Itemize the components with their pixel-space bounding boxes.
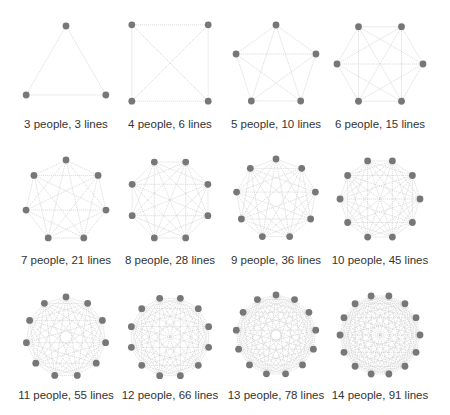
person-node [128,21,135,28]
edge-line [355,304,416,353]
edge-line [34,160,66,175]
figure-label-11: 11 people, 55 lines [10,389,122,401]
edge-line [276,159,302,168]
edge-line [186,162,208,184]
edge-line [48,160,66,238]
edge-line [340,199,348,223]
person-node [129,181,136,188]
complete-graph-14 [337,293,424,378]
person-node [409,219,416,226]
person-node [195,305,202,312]
person-node [99,317,106,324]
figure-label-9: 9 people, 36 lines [220,254,332,266]
edge-line [154,184,208,238]
person-node [128,98,135,105]
edge-line [48,210,106,238]
person-node [368,293,375,300]
edge-line [26,26,66,95]
person-node [156,295,163,302]
person-node [248,98,255,105]
edge-line [340,199,412,223]
person-node [334,61,341,68]
person-node [138,305,145,312]
person-node [307,216,314,223]
edge-line [131,327,159,376]
edge-line [262,192,315,237]
person-node [355,23,362,30]
edge-line [290,219,311,237]
edge-line [131,327,180,376]
person-node [368,371,375,378]
person-node [102,92,109,99]
edge-line [34,175,106,210]
edge-line [392,199,420,237]
person-node [238,216,245,223]
edge-line [48,175,98,238]
edge-line [66,160,98,175]
person-node [80,235,87,242]
edge-line [26,175,98,210]
person-node [337,196,344,203]
person-node [63,294,70,301]
edge-line [44,303,54,375]
complete-graph-7 [23,157,110,242]
person-node [273,292,280,299]
person-node [95,172,102,179]
edge-line [30,320,106,342]
person-node [177,372,184,379]
edge-line [26,210,84,238]
person-node [402,363,409,370]
person-node [417,332,424,339]
complete-graph-4 [128,21,211,104]
edge-line [348,223,368,238]
edge-line [30,303,88,320]
figure-label-8: 8 people, 28 lines [114,254,226,266]
person-node [385,293,392,300]
edges [340,161,420,237]
person-node [420,61,427,68]
person-node [299,362,306,369]
edge-line [251,25,276,101]
edge-line [368,175,413,237]
person-node [205,98,212,105]
edge-line [368,161,413,223]
person-node [352,363,359,370]
person-node [156,372,163,379]
figure-label-6: 6 people, 15 lines [324,118,436,130]
edge-line [337,27,359,64]
person-node [205,323,212,330]
person-node [341,314,348,321]
edge-line [340,175,412,199]
edge-line [389,304,405,374]
edge-line [276,25,316,54]
person-node [74,372,81,379]
person-node [63,23,70,30]
edge-line [237,168,302,192]
person-node [298,165,305,172]
person-node [355,98,362,105]
person-node [409,172,416,179]
person-node [352,300,359,307]
person-node [23,207,30,214]
person-node [417,196,424,203]
person-node [273,156,280,163]
person-node [291,296,298,303]
person-node [344,172,351,179]
edge-line [249,300,294,365]
person-node [240,309,247,316]
person-node [182,159,189,166]
person-node [398,98,405,105]
edge-line [186,216,208,238]
edge-line [337,27,402,64]
edge-line [392,161,412,223]
edge-line [236,54,251,101]
person-node [84,300,91,307]
person-node [233,327,240,334]
person-node [246,362,253,369]
edge-line [236,54,301,101]
complete-graph-5 [233,22,320,105]
edge-line [239,330,316,349]
edge-line [276,25,301,101]
edge-line [66,26,106,95]
person-node [31,172,38,179]
